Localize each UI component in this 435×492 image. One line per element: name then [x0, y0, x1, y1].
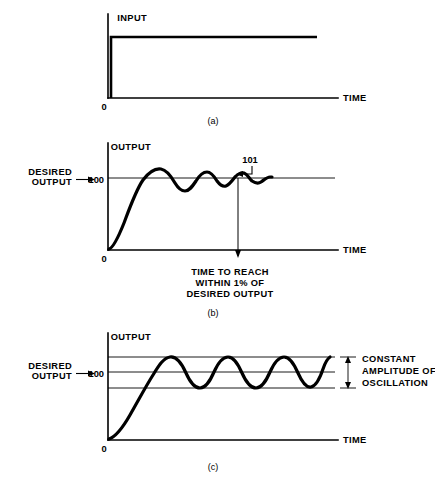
panel-b-setpoint-number: 100 [88, 175, 104, 185]
panel-b-note-line1: TIME TO REACH [191, 267, 269, 277]
panel-c-caption: (c) [208, 462, 219, 472]
panel-c-setpoint-number: 100 [88, 369, 104, 379]
panel-a: INPUT 0 TIME (a) [101, 13, 366, 126]
panel-c-origin-label: 0 [101, 444, 106, 454]
panel-c: OUTPUT DESIRED OUTPUT 100 CONSTANT AMPLI… [28, 332, 435, 472]
panel-c-desired-label-line1: DESIRED [28, 361, 72, 371]
panel-a-step-trace [111, 37, 317, 98]
panel-a-x-axis-label: TIME [343, 93, 367, 103]
panel-b-peak-annotation: 101 [242, 155, 258, 165]
panel-b-settling-time-arrowhead [235, 250, 241, 258]
panel-a-y-axis-label: INPUT [117, 13, 147, 23]
panel-b-y-axis-label: OUTPUT [111, 142, 151, 152]
panel-c-amplitude-label-line3: OSCILLATION [362, 378, 428, 388]
panel-b-origin-label: 0 [101, 254, 106, 264]
panel-c-oscillation-curve [109, 357, 330, 439]
panel-b-desired-label-line1: DESIRED [28, 167, 72, 177]
panel-c-desired-label-line2: OUTPUT [32, 371, 72, 381]
step-response-figure: INPUT 0 TIME (a) OUTPUT DESIRED OUTPUT 1… [0, 0, 435, 492]
panel-b-note-line3: DESIRED OUTPUT [186, 289, 273, 299]
panel-b-x-axis-label: TIME [343, 245, 367, 255]
panel-b-note-line2: WITHIN 1% OF [196, 278, 265, 288]
panel-b-desired-label-line2: OUTPUT [32, 177, 72, 187]
panel-c-y-axis-label: OUTPUT [111, 332, 151, 342]
panel-a-caption: (a) [208, 116, 219, 126]
panel-c-amplitude-label-line2: AMPLITUDE OF [362, 366, 435, 376]
panel-c-x-axis-label: TIME [343, 435, 367, 445]
panel-b-response-curve [109, 169, 272, 249]
panel-c-amplitude-label-line1: CONSTANT [362, 354, 416, 364]
panel-b-caption: (b) [208, 308, 219, 318]
panel-a-origin-label: 0 [101, 102, 106, 112]
panel-b: OUTPUT DESIRED OUTPUT 100 100 101 0 TIME… [28, 142, 366, 318]
